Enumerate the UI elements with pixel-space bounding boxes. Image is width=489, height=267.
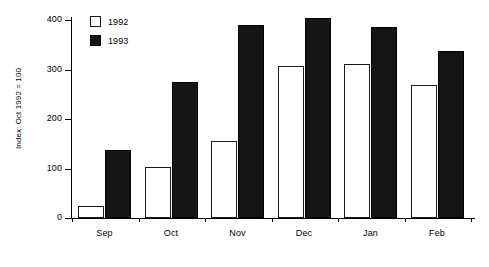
x-category-label-oct: Oct [135, 228, 208, 238]
bar-oct-1993 [172, 82, 198, 218]
legend-swatch-icon-1993 [90, 35, 101, 46]
legend-swatch-icon-1992 [90, 16, 101, 27]
bar-chart: Index: Oct 1992 = 100 0100200300400 SepO… [0, 0, 489, 267]
x-tick-mark [139, 218, 140, 222]
bar-nov-1993 [238, 25, 264, 218]
legend-label-1992: 1992 [108, 17, 128, 27]
x-category-label-sep: Sep [68, 228, 141, 238]
x-tick-mark [205, 218, 206, 222]
x-category-label-feb: Feb [401, 228, 474, 238]
y-tick-mark [65, 119, 71, 120]
bar-nov-1992 [211, 141, 237, 218]
y-tick-label: 0 [34, 213, 62, 222]
y-tick-label: 300 [34, 65, 62, 74]
x-category-label-nov: Nov [201, 228, 274, 238]
y-tick-mark [65, 70, 71, 71]
bar-sep-1993 [105, 150, 131, 218]
bar-sep-1992 [78, 206, 104, 218]
x-tick-mark [471, 218, 472, 222]
legend-item-1992[interactable]: 1992 [90, 14, 128, 29]
x-axis-line [71, 218, 475, 219]
legend-label-1993: 1993 [108, 36, 128, 46]
bar-oct-1992 [145, 167, 171, 218]
legend-item-1993[interactable]: 1993 [90, 33, 128, 48]
x-tick-mark [272, 218, 273, 222]
bar-feb-1992 [411, 85, 437, 218]
x-tick-mark [338, 218, 339, 222]
y-tick-label: 200 [34, 114, 62, 123]
y-tick-label: 100 [34, 164, 62, 173]
y-tick-mark [65, 169, 71, 170]
bar-jan-1992 [344, 64, 370, 218]
x-category-label-dec: Dec [268, 228, 341, 238]
plot-area [72, 12, 472, 218]
y-axis-title: Index: Oct 1992 = 100 [14, 44, 23, 174]
bar-feb-1993 [438, 51, 464, 218]
y-tick-label: 400 [34, 15, 62, 24]
bar-jan-1993 [371, 27, 397, 218]
bar-dec-1993 [305, 18, 331, 218]
chart-legend: 1992 1993 [90, 14, 128, 52]
x-tick-mark [72, 218, 73, 222]
bar-dec-1992 [278, 66, 304, 218]
x-category-label-jan: Jan [334, 228, 407, 238]
y-tick-mark [65, 20, 71, 21]
x-tick-mark [405, 218, 406, 222]
